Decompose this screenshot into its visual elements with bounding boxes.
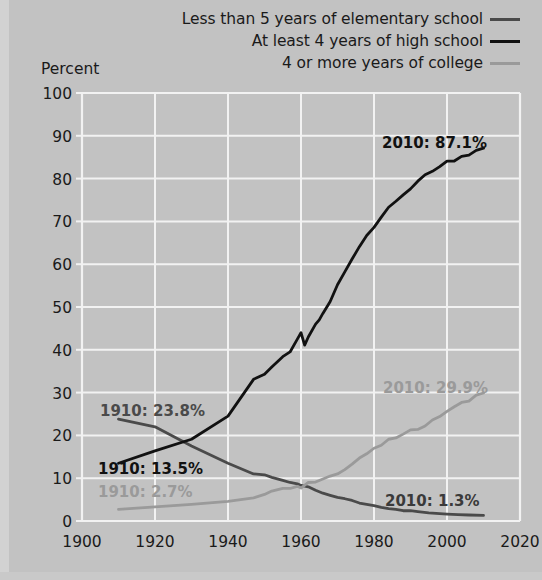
x-tick-labels: 1900192019401960198020002020 <box>62 533 539 551</box>
y-tick-label: 90 <box>52 128 72 146</box>
y-tick-label: 10 <box>52 470 72 488</box>
y-tick-label: 20 <box>52 427 72 445</box>
chart-plot-area: 0102030405060708090100 19001920194019601… <box>0 0 542 580</box>
x-tick-label: 1960 <box>281 533 320 551</box>
x-tick-label: 2020 <box>500 533 539 551</box>
y-tick-label: 70 <box>52 213 72 231</box>
y-tick-label: 100 <box>42 85 72 103</box>
y-tick-label: 50 <box>52 299 72 317</box>
gridlines <box>82 93 520 521</box>
x-tick-label: 1920 <box>135 533 174 551</box>
y-tick-label: 0 <box>62 513 72 531</box>
y-tick-label: 60 <box>52 256 72 274</box>
y-tick-labels: 0102030405060708090100 <box>42 85 82 531</box>
x-tick-label: 2000 <box>427 533 466 551</box>
x-tick-label: 1980 <box>354 533 393 551</box>
chart-figure: Less than 5 years of elementary school A… <box>0 0 542 580</box>
x-tick-label: 1900 <box>62 533 101 551</box>
x-tick-label: 1940 <box>208 533 247 551</box>
y-tick-label: 80 <box>52 171 72 189</box>
y-tick-label: 40 <box>52 342 72 360</box>
y-tick-label: 30 <box>52 385 72 403</box>
